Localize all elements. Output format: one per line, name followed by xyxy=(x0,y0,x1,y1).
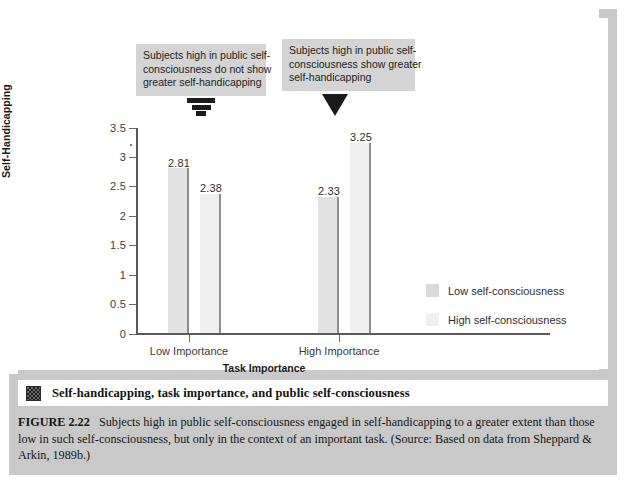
figure-caption: FIGURE 2.22 Subjects high in public self… xyxy=(18,414,596,464)
bar-high-importance-low-sc xyxy=(318,197,339,334)
legend-swatch-low-icon xyxy=(426,284,439,297)
figure-caption-text: Subjects high in public self-consciousne… xyxy=(18,415,595,462)
solid-down-triangle-icon xyxy=(322,94,348,116)
callout-high-line-2: consciousness show greater xyxy=(289,58,408,72)
bar-low-importance-low-sc xyxy=(168,168,189,333)
y-axis-ticks: 3.5 3 2.5 2 1.5 1 0.5 0 xyxy=(18,18,136,335)
bar-value-2-33: 2.33 xyxy=(318,185,340,197)
legend-label-high: High self-consciousness xyxy=(448,314,567,326)
panel-separator xyxy=(18,370,608,375)
y-tick-label-3: 3 xyxy=(120,151,126,163)
bar-low-importance-high-sc xyxy=(200,194,221,333)
legend-item-high: High self-consciousness xyxy=(426,313,567,326)
y-tick-label-1-5: 1.5 xyxy=(110,239,126,251)
callout-low-line-1: Subjects high in public self- xyxy=(143,49,259,63)
x-tick-label-low-importance: Low Importance xyxy=(150,345,228,357)
bar-value-3-25: 3.25 xyxy=(350,131,372,143)
y-tick-label-0-5: 0.5 xyxy=(110,298,126,310)
y-axis-stray-dot xyxy=(130,144,132,146)
y-tick-label-2: 2 xyxy=(120,210,126,222)
bar-high-importance-high-sc xyxy=(350,143,371,333)
figure-title: Self-handicapping, task importance, and … xyxy=(52,386,410,401)
chart-legend: Low self-consciousness High self-conscio… xyxy=(426,284,567,342)
y-tick-label-3-5: 3.5 xyxy=(110,122,126,134)
dither-square-icon xyxy=(26,386,41,401)
callout-high-line-3: self-handicapping xyxy=(289,71,408,85)
y-tick-label-1: 1 xyxy=(120,269,126,281)
callout-high-line-1: Subjects high in public self- xyxy=(289,44,408,58)
x-tick-high xyxy=(339,335,340,342)
callout-low-line-2: consciousness do not show xyxy=(143,63,259,77)
legend-swatch-high-icon xyxy=(426,313,439,326)
segmented-down-triangle-icon xyxy=(187,98,215,118)
x-tick-label-high-importance: High Importance xyxy=(299,345,380,357)
x-tick-low xyxy=(189,335,190,342)
figure-title-band: Self-handicapping, task importance, and … xyxy=(18,380,608,406)
y-tick-label-2-5: 2.5 xyxy=(110,180,126,192)
callout-high-importance: Subjects high in public self- consciousn… xyxy=(282,39,415,91)
legend-label-low: Low self-consciousness xyxy=(448,285,564,297)
figure-caption-label: FIGURE 2.22 xyxy=(18,415,90,429)
x-axis-title: Task Importance xyxy=(223,362,306,374)
callout-low-line-3: greater self-handicapping xyxy=(143,76,259,90)
y-axis-title: Self-Handicapping xyxy=(0,84,12,178)
figure-page: Subjects high in public self- consciousn… xyxy=(0,0,626,485)
bar-value-2-81: 2.81 xyxy=(168,157,190,169)
y-tick-label-0: 0 xyxy=(120,328,126,340)
chart: Subjects high in public self- consciousn… xyxy=(18,18,608,369)
legend-item-low: Low self-consciousness xyxy=(426,284,567,297)
callout-low-importance: Subjects high in public self- consciousn… xyxy=(136,44,266,96)
bar-value-2-38: 2.38 xyxy=(200,182,222,194)
